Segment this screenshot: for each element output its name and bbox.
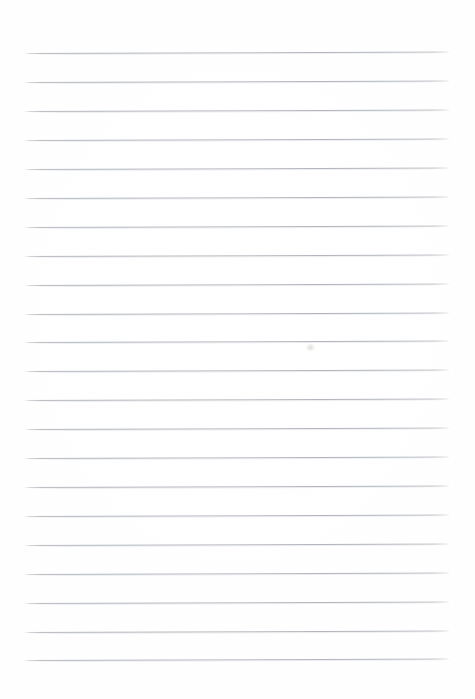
rule-line — [24, 52, 450, 54]
rule-line — [24, 602, 450, 604]
rule-line — [24, 139, 450, 141]
rule-line — [24, 226, 450, 228]
rule-line — [24, 110, 450, 112]
rule-line — [24, 255, 450, 257]
rule-line — [24, 457, 450, 459]
ruled-lines-layer — [0, 0, 475, 699]
rule-line — [24, 486, 450, 488]
rule-line — [24, 284, 450, 286]
rule-line — [24, 168, 450, 170]
rule-line — [24, 197, 450, 199]
rule-line — [24, 313, 450, 315]
rule-line — [24, 659, 450, 661]
rule-line — [24, 573, 450, 575]
rule-line — [24, 81, 450, 83]
rule-line — [24, 399, 450, 401]
rule-line — [24, 370, 450, 372]
rule-line — [24, 428, 450, 430]
rule-line — [24, 544, 450, 546]
rule-line — [24, 341, 450, 343]
rule-line — [24, 631, 450, 633]
scanned-page — [0, 0, 475, 699]
rule-line — [24, 515, 450, 517]
